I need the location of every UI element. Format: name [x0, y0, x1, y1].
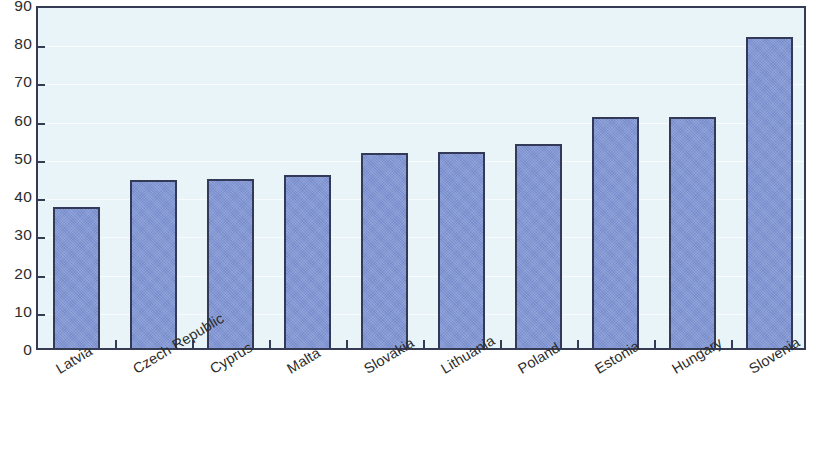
bar — [746, 37, 793, 349]
x-category-label: Malta — [284, 344, 323, 376]
bar — [53, 207, 100, 348]
bar — [515, 144, 562, 348]
bar — [669, 117, 716, 348]
bar-chart-figure: 0102030405060708090 LatviaCzech Republic… — [0, 0, 819, 455]
bar — [592, 117, 639, 348]
x-axis-category-labels: LatviaCzech RepublicCyprusMaltaSlovakiaL… — [0, 350, 819, 455]
y-tick-label: 80 — [0, 36, 32, 52]
plot-area — [36, 6, 806, 350]
bar — [361, 153, 408, 348]
y-tick-label: 40 — [0, 189, 32, 205]
y-tick-label: 20 — [0, 266, 32, 282]
bar — [438, 152, 485, 348]
y-axis: 0102030405060708090 — [0, 0, 32, 360]
bars-layer — [38, 8, 804, 348]
y-tick-label: 50 — [0, 151, 32, 167]
y-tick-label: 30 — [0, 227, 32, 243]
y-tick-label: 10 — [0, 304, 32, 320]
bar — [130, 180, 177, 348]
y-tick-label: 60 — [0, 113, 32, 129]
y-tick-label: 70 — [0, 74, 32, 90]
bar — [284, 175, 331, 348]
y-tick-label: 90 — [0, 0, 32, 14]
